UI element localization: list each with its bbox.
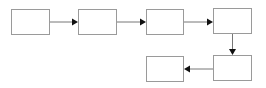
arrow-box5-to-box6 — [184, 66, 213, 73]
edges-layer — [0, 0, 266, 88]
arrow-box4-to-box5 — [229, 34, 236, 55]
arrow-box3-to-box4 — [184, 19, 213, 26]
arrow-box2-to-box3 — [117, 19, 146, 26]
arrow-box1-to-box2 — [50, 19, 78, 26]
